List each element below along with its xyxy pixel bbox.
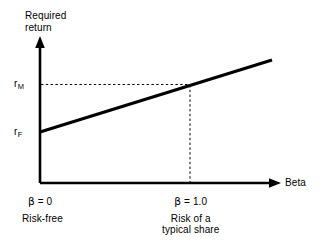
y-tick-label-rf: rF [14,126,22,139]
x-axis [40,178,281,188]
security-market-line-figure: Required return Beta rM rF β = 0 Risk-fr… [0,0,323,250]
y-tick-label-rm: rM [14,78,24,91]
y-axis-title-line2: return [25,22,66,34]
annotation-market-risk-description-line1: Risk of a [162,213,219,225]
x-axis-title: Beta [285,177,306,189]
y-tick-rm-symbol: r [14,78,17,89]
security-market-line [40,60,272,132]
annotation-risk-free: β = 0 Risk-free [22,196,63,224]
annotation-market-risk: β = 1.0 Risk of a typical share [162,196,219,236]
y-tick-rm-subscript: M [18,82,24,91]
y-tick-rf-symbol: r [14,126,17,137]
y-tick-rf-subscript: F [18,130,23,139]
annotation-risk-free-beta-value: = 0 [38,196,52,207]
annotation-risk-free-beta: β = 0 [28,196,63,208]
annotation-risk-free-description: Risk-free [22,213,63,225]
annotation-market-risk-beta: β = 1.0 [162,196,219,208]
y-axis-title-line1: Required [25,10,66,21]
y-axis [35,36,45,183]
beta-symbol-right-icon: β [174,195,181,207]
y-axis-title: Required return [25,10,66,34]
annotation-market-risk-description-line2: typical share [162,224,219,236]
beta-symbol-left-icon: β [28,195,35,207]
annotation-market-risk-beta-value: = 1.0 [184,196,207,207]
